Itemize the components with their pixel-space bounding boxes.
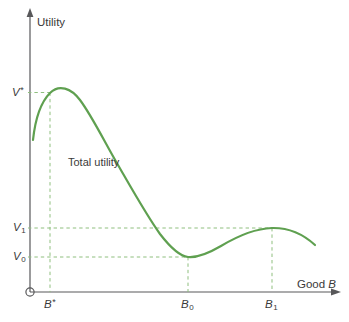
x-axis-label-prefix: Good	[297, 278, 328, 290]
total-utility-curve-label: Total utility	[68, 157, 119, 168]
x-axis-label: Good B	[297, 279, 336, 291]
x-tick-label-b-star: B*	[44, 299, 55, 311]
x-tick-b-one-base: B	[265, 298, 273, 310]
y-axis-label: Utility	[37, 17, 65, 29]
total-utility-curve	[33, 88, 315, 257]
x-tick-b-star-sup: *	[52, 297, 56, 307]
y-tick-v-star-base: V	[12, 86, 20, 98]
y-tick-label-v-zero: V0	[13, 251, 25, 263]
x-tick-b-star-base: B	[44, 298, 52, 310]
y-tick-v-one-base: V	[13, 221, 21, 233]
guide-lines-group	[28, 93, 272, 293]
x-axis-label-symbol: B	[328, 278, 336, 290]
x-tick-b-one-sub: 1	[273, 303, 277, 312]
x-tick-label-b-zero: B0	[181, 299, 193, 311]
y-tick-v-one-sub: 1	[21, 226, 25, 235]
y-tick-label-v-one: V1	[13, 222, 25, 234]
y-tick-label-v-star: V*	[12, 87, 23, 99]
y-tick-v-zero-sub: 0	[21, 255, 25, 264]
x-tick-b-zero-sub: 0	[189, 303, 193, 312]
x-tick-label-b-one: B1	[265, 299, 277, 311]
chart-canvas	[0, 0, 349, 322]
x-tick-b-zero-base: B	[181, 298, 189, 310]
y-tick-v-zero-base: V	[13, 250, 21, 262]
y-tick-v-star-sup: *	[20, 85, 24, 95]
utility-chart-figure: Utility Good B Total utility V* V1 V0 B*…	[0, 0, 349, 322]
axes-group	[26, 8, 341, 296]
y-axis-arrowhead	[27, 8, 34, 17]
